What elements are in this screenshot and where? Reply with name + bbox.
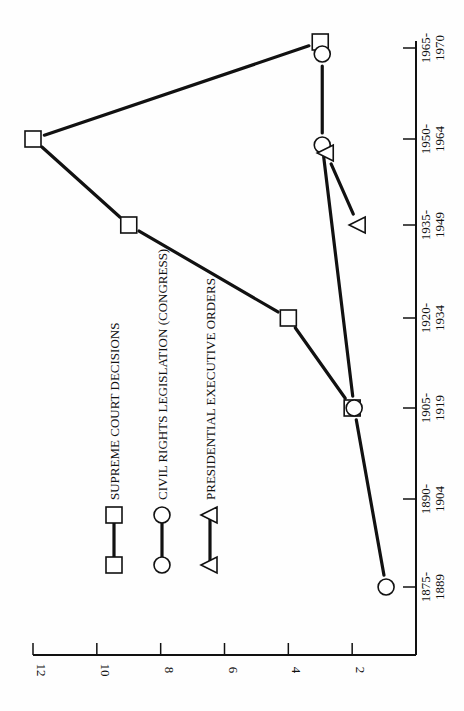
svg-text:1890-: 1890- bbox=[418, 484, 433, 514]
series-segment bbox=[356, 420, 384, 575]
value-tick-label: 12 bbox=[34, 664, 49, 677]
legend-label: SUPREME COURT DECISIONS bbox=[107, 323, 122, 500]
legend-label: CIVIL RIGHTS LEGISLATION (CONGRESS) bbox=[155, 249, 170, 500]
category-tick-label: 1965-1970 bbox=[418, 33, 447, 63]
value-tick-label: 6 bbox=[226, 667, 241, 674]
square-data-point bbox=[280, 310, 296, 326]
series-segment bbox=[295, 328, 345, 398]
svg-text:1965-: 1965- bbox=[418, 33, 433, 63]
square-data-point bbox=[121, 217, 137, 233]
legend-circle-icon bbox=[154, 507, 170, 523]
value-tick-label: 8 bbox=[162, 667, 177, 674]
triangle-data-point bbox=[349, 217, 365, 233]
svg-text:1949: 1949 bbox=[432, 212, 447, 238]
svg-text:1904: 1904 bbox=[432, 486, 447, 513]
category-tick-label: 1875-1889 bbox=[418, 572, 447, 602]
svg-text:1905-: 1905- bbox=[418, 393, 433, 423]
legend-square-icon bbox=[106, 557, 122, 573]
category-tick-label: 1950-1964 bbox=[418, 124, 447, 154]
svg-text:1934: 1934 bbox=[432, 305, 447, 332]
svg-text:1919: 1919 bbox=[432, 395, 447, 421]
value-tick-label: 2 bbox=[353, 667, 368, 674]
svg-text:1964: 1964 bbox=[432, 126, 447, 153]
category-tick-label: 1905-1919 bbox=[418, 393, 447, 423]
svg-text:1889: 1889 bbox=[432, 574, 447, 600]
circle-data-point bbox=[346, 400, 362, 416]
value-tick-label: 4 bbox=[289, 667, 304, 674]
rotated-line-chart: 246810121875-18891890-19041905-19191920-… bbox=[0, 0, 464, 711]
series-segment bbox=[42, 147, 120, 217]
series-segment bbox=[331, 164, 353, 214]
value-tick-label: 10 bbox=[98, 664, 113, 677]
legend: SUPREME COURT DECISIONSCIVIL RIGHTS LEGI… bbox=[106, 249, 218, 573]
series-segment bbox=[44, 46, 309, 135]
category-tick-label: 1920-1934 bbox=[418, 303, 447, 333]
series-segment bbox=[324, 157, 353, 396]
legend-circle-icon bbox=[154, 557, 170, 573]
circle-data-point bbox=[378, 579, 394, 595]
svg-text:1935-: 1935- bbox=[418, 210, 433, 240]
svg-text:1920-: 1920- bbox=[418, 303, 433, 333]
svg-text:1950-: 1950- bbox=[418, 124, 433, 154]
square-data-point bbox=[25, 131, 41, 147]
svg-text:1875-: 1875- bbox=[418, 572, 433, 602]
circle-data-point bbox=[314, 46, 330, 62]
legend-square-icon bbox=[106, 507, 122, 523]
category-tick-label: 1935-1949 bbox=[418, 210, 447, 240]
svg-text:1970: 1970 bbox=[432, 35, 447, 61]
category-tick-label: 1890-1904 bbox=[418, 484, 447, 514]
legend-label: PRESIDENTIAL EXECUTIVE ORDERS bbox=[203, 278, 218, 500]
